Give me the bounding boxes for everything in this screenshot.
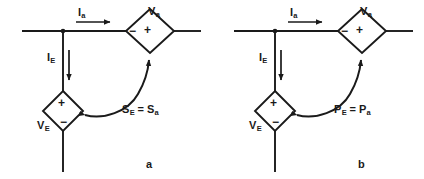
polarity-horizontal-right: +: [356, 24, 363, 36]
label-source-horizontal: Va: [148, 6, 160, 17]
panel-a: Ia Va IE VE SE = Sa − + + − a: [0, 0, 212, 179]
panel-b: Ia Va IE VE PE = Pa − + + − b: [212, 0, 424, 179]
label-current-horizontal: Ia: [290, 7, 297, 18]
polarity-vertical-top: +: [270, 97, 277, 109]
polarity-horizontal-left: −: [341, 25, 348, 37]
panel-a-schematic: [0, 0, 212, 179]
polarity-vertical-top: +: [58, 97, 65, 109]
label-current-vertical: IE: [47, 52, 55, 63]
panel-letter-b: b: [358, 158, 365, 170]
polarity-vertical-bottom: −: [60, 116, 67, 128]
figure-root: Ia Va IE VE SE = Sa − + + − a: [0, 0, 424, 179]
polarity-vertical-bottom: −: [272, 116, 279, 128]
label-relation-equation: PE = Pa: [334, 104, 370, 115]
label-source-vertical: VE: [37, 120, 49, 131]
label-relation-equation: SE = Sa: [122, 104, 158, 115]
polarity-horizontal-left: −: [129, 25, 136, 37]
label-source-vertical: VE: [249, 120, 261, 131]
label-source-horizontal: Va: [360, 6, 372, 17]
polarity-horizontal-right: +: [144, 24, 151, 36]
label-current-vertical: IE: [259, 52, 267, 63]
panel-b-schematic: [212, 0, 424, 179]
panel-letter-a: a: [146, 158, 152, 170]
label-current-horizontal: Ia: [78, 7, 85, 18]
